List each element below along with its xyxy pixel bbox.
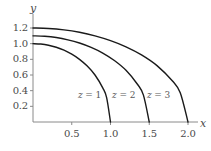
curve-annotation-2: z = 2 — [112, 90, 135, 100]
annotation-value: 3 — [165, 90, 171, 100]
y-tick-label: 0.6 — [2, 69, 28, 80]
x-tick-label: 0.5 — [57, 128, 87, 139]
curve-annotation-3: z = 3 — [147, 90, 170, 100]
annotation-equals: = — [85, 90, 92, 100]
curve-1 — [33, 44, 111, 122]
y-tick-label: 1.2 — [2, 22, 28, 33]
annotation-value: 1 — [96, 90, 102, 100]
y-axis-title: y — [30, 2, 36, 15]
curve-3 — [33, 28, 188, 122]
annotation-variable: z — [112, 90, 117, 100]
annotation-value: 2 — [130, 90, 136, 100]
x-tick-label: 1.0 — [96, 128, 126, 139]
curve-annotation-1: z = 1 — [78, 90, 101, 100]
y-tick-label: 0.2 — [2, 100, 28, 111]
y-tick-label: 1.0 — [2, 38, 28, 49]
annotation-equals: = — [154, 90, 161, 100]
curve-2 — [33, 36, 149, 122]
x-tick-label: 1.5 — [134, 128, 164, 139]
x-tick-label: 2.0 — [173, 128, 203, 139]
annotation-variable: z — [147, 90, 152, 100]
chart-figure: y x 0.20.40.60.81.01.2 0.51.01.52.0 z = … — [0, 0, 211, 151]
y-tick-label: 0.8 — [2, 53, 28, 64]
annotation-equals: = — [119, 90, 126, 100]
y-tick-label: 0.4 — [2, 85, 28, 96]
annotation-variable: z — [78, 90, 83, 100]
data-curves — [33, 28, 188, 122]
